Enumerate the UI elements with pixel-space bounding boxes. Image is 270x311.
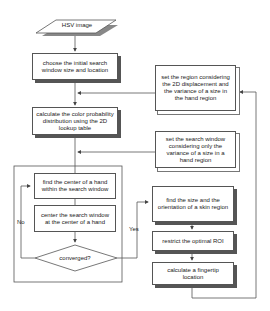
node-restrict-roi-label: restrict the optimal ROI bbox=[162, 238, 223, 245]
edge-label-no: No bbox=[17, 219, 25, 226]
node-calculate-fingertip: calculate a fingertip location bbox=[152, 262, 234, 285]
node-hsv-image-label: HSV image bbox=[62, 22, 92, 28]
decision-converged: converged? bbox=[55, 255, 95, 262]
node-center-window-label: center the search window at the center o… bbox=[38, 212, 112, 226]
node-set-region: set the region considering the 2D displa… bbox=[155, 65, 236, 111]
edge-label-yes: Yes bbox=[129, 226, 139, 233]
node-calculate-color-probability: calculate the color probability distribu… bbox=[32, 107, 118, 135]
node-set-search-window-label: set the search window considering only t… bbox=[159, 136, 232, 164]
node-find-center-label: find the center of a hand within the sea… bbox=[38, 179, 112, 193]
node-calculate-fingertip-label: calculate a fingertip location bbox=[156, 267, 230, 281]
flowchart-canvas: HSV image choose the initial search wind… bbox=[0, 0, 270, 311]
node-calculate-color-probability-label: calculate the color probability distribu… bbox=[36, 111, 114, 132]
decision-converged-label: converged? bbox=[59, 255, 90, 261]
node-find-center: find the center of a hand within the sea… bbox=[34, 173, 116, 199]
node-set-search-window: set the search window considering only t… bbox=[155, 131, 236, 168]
node-choose-initial-window: choose the initial search window size an… bbox=[32, 53, 118, 80]
node-choose-initial-window-label: choose the initial search window size an… bbox=[36, 60, 114, 74]
node-center-window: center the search window at the center o… bbox=[34, 205, 116, 232]
node-set-region-label: set the region considering the 2D displa… bbox=[159, 74, 232, 102]
node-find-size-orientation-label: find the size and the orientation of a s… bbox=[156, 197, 230, 211]
node-find-size-orientation: find the size and the orientation of a s… bbox=[152, 186, 234, 222]
node-restrict-roi: restrict the optimal ROI bbox=[152, 231, 234, 251]
node-hsv-image: HSV image bbox=[52, 22, 102, 32]
